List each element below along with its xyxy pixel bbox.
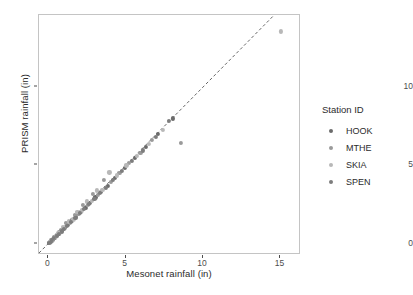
legend-key-dot-icon [322, 129, 339, 133]
x-tick-label: 0 [35, 258, 59, 268]
y-axis-label: PRISM rainfall (in) [19, 44, 30, 184]
x-tick-mark [279, 255, 280, 258]
legend-key-dot-icon [322, 180, 339, 184]
legend-item-label: MTHE [346, 143, 372, 153]
y-tick-label: 5 [391, 159, 413, 169]
legend-item-spen[interactable]: SPEN [322, 173, 373, 190]
legend-item-label: HOOK [346, 126, 373, 136]
legend-key-dot-icon [322, 146, 339, 150]
x-tick-mark [47, 255, 48, 258]
legend-item-label: SKIA [346, 160, 367, 170]
x-tick-label: 15 [267, 258, 291, 268]
y-tick-mark [34, 86, 37, 87]
y-tick-label: 0 [391, 238, 413, 248]
one-to-one-reference-line [39, 15, 299, 253]
x-tick-label: 5 [113, 258, 137, 268]
legend-entries: HOOKMTHESKIASPEN [322, 122, 373, 190]
legend: Station ID HOOKMTHESKIASPEN [322, 104, 373, 190]
legend-item-hook[interactable]: HOOK [322, 122, 373, 139]
legend-item-skia[interactable]: SKIA [322, 156, 373, 173]
plot-panel [38, 14, 300, 254]
scatter-plot-figure: PRISM rainfall (in) Mesonet rainfall (in… [0, 0, 413, 295]
legend-item-label: SPEN [346, 177, 371, 187]
legend-title: Station ID [322, 104, 373, 115]
y-tick-mark [34, 164, 37, 165]
y-tick-mark [34, 242, 37, 243]
legend-item-mthe[interactable]: MTHE [322, 139, 373, 156]
x-axis-label: Mesonet rainfall (in) [38, 268, 300, 279]
x-tick-mark [202, 255, 203, 258]
x-tick-label: 10 [190, 258, 214, 268]
legend-key-dot-icon [322, 163, 339, 167]
y-tick-label: 10 [391, 81, 413, 91]
x-tick-mark [125, 255, 126, 258]
